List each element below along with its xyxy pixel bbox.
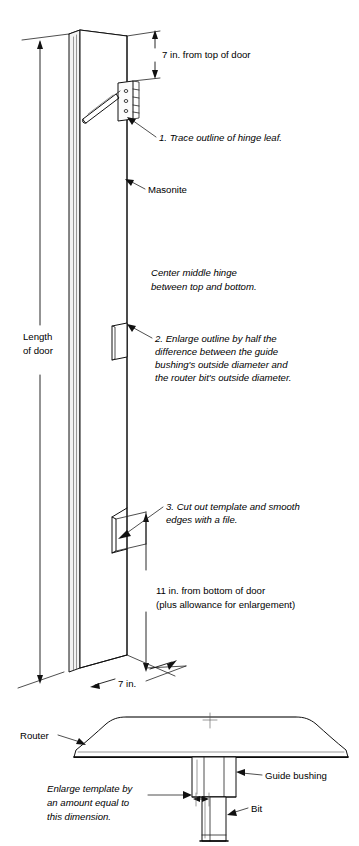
step-1-label: 1. Trace outline of hinge leaf. xyxy=(159,132,282,143)
enlarge-note-line-2: an amount equal to xyxy=(47,797,130,808)
center-note-line-1: Center middle hinge xyxy=(151,267,237,278)
masonite-label: Masonite xyxy=(148,184,187,195)
length-of-door-dimension xyxy=(37,40,43,684)
length-of-door-line-1: Length xyxy=(23,331,52,342)
step-2-line-1: 2. Enlarge outline by half the xyxy=(154,333,277,344)
router-assembly xyxy=(74,713,348,757)
bottom-dimension-line-2: (plus allowance for enlargement) xyxy=(156,599,295,610)
top-dimension xyxy=(127,30,160,81)
enlarge-note-line-3: this dimension. xyxy=(47,811,111,822)
top-dimension-label: 7 in. from top of door xyxy=(162,49,251,60)
step-2-line-3: bushing's outside diameter and xyxy=(155,359,288,370)
bottom-dimension-line-1: 11 in. from bottom of door xyxy=(156,585,266,596)
router-label: Router xyxy=(20,730,50,741)
hinge-leaf xyxy=(118,81,139,121)
step-3-line-1: 3. Cut out template and smooth xyxy=(166,501,300,512)
length-of-door-line-2: of door xyxy=(23,345,54,356)
center-note-line-2: between top and bottom. xyxy=(151,281,257,292)
diagram-page: 7 in. from top of door 1. Trace outline … xyxy=(0,0,359,846)
bit-label: Bit xyxy=(251,803,263,814)
step-2-line-2: difference between the guide xyxy=(155,346,278,357)
width-dimension-label: 7 in. xyxy=(118,678,136,689)
middle-hinge-outline xyxy=(112,323,127,360)
step-3-line-2: edges with a file. xyxy=(166,514,237,525)
guide-bushing xyxy=(192,757,236,797)
router-bit xyxy=(200,797,228,841)
step-2-line-4: the router bit's outside diameter. xyxy=(155,372,291,383)
enlarge-note-line-1: Enlarge template by xyxy=(47,783,134,794)
diagram-canvas: 7 in. from top of door 1. Trace outline … xyxy=(0,0,359,846)
guide-bushing-label: Guide bushing xyxy=(265,770,327,781)
